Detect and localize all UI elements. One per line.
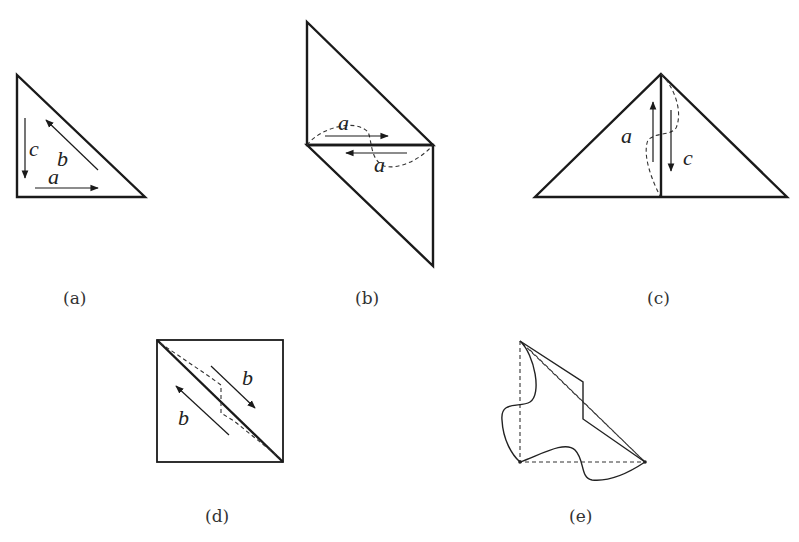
tiling-figure: c b a (a) a a (b) a c (c) b b (d)	[0, 0, 799, 542]
panel-a: c b a (a)	[17, 75, 145, 308]
caption-d: (d)	[205, 506, 229, 526]
edge-label-a: a	[48, 164, 59, 189]
edge-label-a-upper: a	[338, 110, 349, 135]
caption-a: (a)	[63, 288, 86, 308]
caption-b: (b)	[355, 288, 379, 308]
edge-label-c: c	[683, 145, 693, 170]
lower-triangle	[307, 145, 433, 266]
offset-diagonal-dashed	[530, 350, 645, 462]
panel-c: a c (c)	[535, 74, 787, 308]
upper-triangle	[307, 22, 433, 145]
edge-label-b-lower: b	[178, 405, 189, 430]
edge-label-a: a	[621, 123, 632, 148]
edge-label-a-lower: a	[374, 152, 385, 177]
deformed-boundary	[502, 341, 645, 480]
panel-e: (e)	[502, 341, 647, 526]
vertex-dot	[643, 460, 647, 464]
caption-c: (c)	[647, 288, 670, 308]
diagonal	[157, 340, 283, 462]
caption-e: (e)	[569, 506, 592, 526]
edge-label-b-upper: b	[242, 365, 253, 390]
vertex-dot	[518, 460, 522, 464]
deformed-edge-dashed	[646, 74, 678, 196]
edge-label-c: c	[29, 136, 39, 161]
panel-d: b b (d)	[157, 340, 283, 526]
panel-b: a a (b)	[307, 22, 433, 308]
